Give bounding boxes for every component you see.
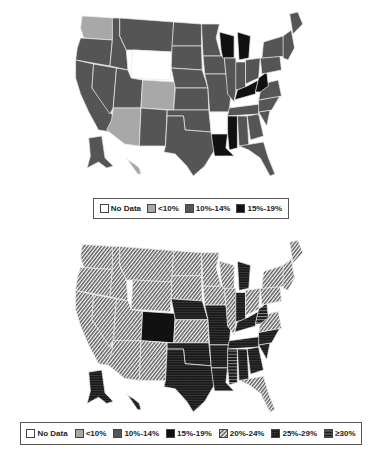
state-fl [239, 142, 275, 176]
state-sd [171, 46, 202, 70]
choropleth-map-top [74, 8, 306, 178]
legend-item-nodata: No Data [100, 204, 141, 213]
state-nd [172, 251, 201, 276]
legend-swatch-icon [113, 429, 122, 438]
legend-label: 10%-14% [196, 204, 231, 213]
legend-swatch-icon [236, 204, 245, 213]
legend-item-lt10: <10% [147, 204, 179, 213]
state-ny [262, 36, 287, 58]
legend-item-ge30: ≥30% [324, 429, 355, 438]
state-fl [239, 376, 275, 412]
state-al [237, 349, 248, 380]
legend-item-p15_19: 15%-19% [166, 429, 212, 438]
state-ne [171, 68, 208, 88]
legend-top: No Data<10%10%-14%15%-19% [93, 198, 289, 219]
legend-swatch-icon [271, 429, 280, 438]
legend-label: 25%-29% [282, 429, 317, 438]
state-pa [260, 56, 281, 74]
legend-label: <10% [158, 204, 179, 213]
legend-item-p25_29: 25%-29% [271, 429, 317, 438]
state-ak [87, 370, 113, 404]
choropleth-map-bottom [74, 236, 306, 414]
legend-swatch-icon [147, 204, 156, 213]
state-ar [210, 112, 230, 134]
state-mi [237, 261, 250, 290]
legend-swatch-icon [324, 429, 333, 438]
legend-label: 15%-19% [177, 429, 212, 438]
legend-label: 10%-14% [124, 429, 159, 438]
state-ny [262, 265, 287, 288]
state-ks [174, 88, 209, 110]
legend-swatch-icon [75, 429, 84, 438]
state-pa [260, 286, 281, 305]
state-wa [81, 16, 114, 40]
state-ga [247, 347, 263, 374]
state-hi [126, 158, 141, 174]
legend-item-p10_14: 10%-14% [113, 429, 159, 438]
state-ks [174, 320, 209, 343]
state-in [236, 293, 246, 322]
state-wy [131, 280, 172, 311]
legend-swatch-icon [26, 429, 35, 438]
state-ga [247, 114, 263, 140]
state-wa [81, 244, 114, 269]
state-al [237, 116, 248, 146]
state-ms [228, 116, 238, 150]
state-ne [171, 299, 208, 320]
state-mt [120, 246, 174, 282]
legend-swatch-icon [100, 204, 109, 213]
legend-item-p20_24: 20%-24% [219, 429, 265, 438]
state-co [141, 311, 175, 342]
legend-item-lt10: <10% [75, 429, 107, 438]
legend-label: No Data [37, 429, 67, 438]
state-mn [201, 253, 221, 287]
state-ak [87, 136, 113, 168]
state-wy [131, 50, 172, 80]
legend-swatch-icon [185, 204, 194, 213]
state-nm [139, 108, 167, 146]
state-hi [126, 393, 141, 410]
legend-swatch-icon [219, 429, 228, 438]
state-ia [203, 286, 226, 305]
state-wi [219, 32, 234, 58]
legend-label: 20%-24% [230, 429, 265, 438]
legend-label: 15%-19% [247, 204, 282, 213]
state-ia [203, 56, 226, 74]
legend-swatch-icon [166, 429, 175, 438]
state-mi [237, 32, 250, 60]
state-ar [210, 345, 230, 368]
state-nd [172, 22, 201, 46]
legend-bottom: No Data<10%10%-14%15%-19%20%-24%25%-29%≥… [20, 422, 362, 445]
state-in [236, 62, 246, 90]
state-nm [139, 341, 167, 381]
state-co [141, 80, 175, 110]
state-sd [171, 276, 202, 301]
state-wi [219, 261, 234, 288]
legend-item-p15_19: 15%-19% [236, 204, 282, 213]
state-mt [120, 18, 174, 52]
legend-label: ≥30% [335, 429, 355, 438]
legend-label: No Data [111, 204, 141, 213]
legend-label: <10% [86, 429, 107, 438]
state-ms [228, 349, 238, 385]
legend-item-p10_14: 10%-14% [185, 204, 231, 213]
state-mn [201, 24, 221, 56]
legend-item-nodata: No Data [26, 429, 67, 438]
